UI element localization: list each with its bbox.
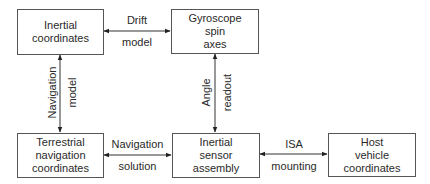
edge-label-model-vertical: model — [66, 61, 79, 125]
node-terrestrial-navigation-coordinates: Terrestrial navigation coordinates — [17, 133, 104, 178]
node-text: Inertial — [44, 19, 77, 32]
node-text: spin — [205, 25, 225, 38]
edge-label-model: model — [112, 36, 162, 49]
node-text: Inertial — [199, 136, 232, 149]
node-text: vehicle — [355, 149, 389, 162]
edge-label-solution: solution — [104, 160, 171, 173]
edge-label-isa: ISA — [262, 138, 326, 151]
node-text: sensor — [199, 149, 232, 162]
node-inertial-coordinates: Inertial coordinates — [17, 9, 104, 55]
node-inertial-sensor-assembly: Inertial sensor assembly — [172, 133, 260, 178]
edge-label-drift: Drift — [112, 14, 162, 27]
node-text: Host — [361, 136, 384, 149]
node-text: coordinates — [32, 32, 89, 45]
edge-label-navigation: Navigation — [104, 138, 171, 151]
node-text: coordinates — [32, 162, 89, 175]
node-text: Terrestrial — [36, 136, 84, 149]
edge-label-angle: Angle — [200, 61, 213, 125]
node-text: assembly — [193, 162, 239, 175]
node-text: Gyroscope — [188, 12, 241, 25]
edge-label-navigation-vertical: Navigation — [46, 61, 59, 125]
edge-label-readout: readout — [221, 61, 234, 125]
node-host-vehicle-coordinates: Host vehicle coordinates — [328, 133, 416, 177]
node-text: navigation — [35, 149, 85, 162]
node-gyroscope-spin-axes: Gyroscope spin axes — [171, 9, 259, 54]
node-text: axes — [203, 38, 226, 51]
edge-label-mounting: mounting — [262, 160, 326, 173]
node-text: coordinates — [344, 162, 401, 175]
